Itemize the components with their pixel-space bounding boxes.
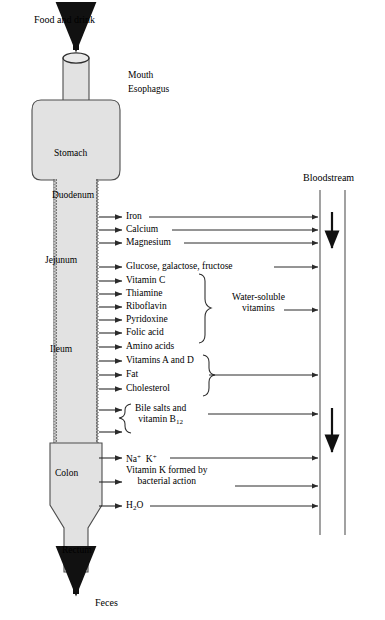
substance-label: Fat <box>126 369 138 380</box>
substance-label: Vitamin C <box>126 275 165 286</box>
substance-label: Magnesium <box>126 237 171 248</box>
substance-label: Iron <box>126 211 142 222</box>
organ-label-duodenum: Duodenum <box>52 190 94 201</box>
substance-label: Calcium <box>126 224 158 235</box>
organ-label-colon: Colon <box>55 468 78 479</box>
organ-label-ileum: Ileum <box>50 344 72 355</box>
organ-label-rectum: Rectum <box>62 545 92 556</box>
intake-label: Food and drink <box>34 14 95 25</box>
organ-label-stomach: Stomach <box>54 148 87 159</box>
substance-group-label: Bile salts andvitamin B12 <box>135 403 186 428</box>
digestive-absorption-diagram: Food and drink Feces Bloodstream MouthEs… <box>0 0 385 620</box>
substance-label: Vitamins A and D <box>126 355 194 366</box>
substance-label: Amino acids <box>126 341 174 352</box>
gi-tract-shape <box>32 53 120 572</box>
organ-label-esophagus: Esophagus <box>128 84 169 95</box>
substance-label: H2O <box>126 500 143 514</box>
organ-label-mouth: Mouth <box>128 70 153 81</box>
bloodstream-label: Bloodstream <box>303 172 354 183</box>
substance-label: Cholesterol <box>126 383 170 394</box>
substance-label: Glucose, galactose, fructose <box>126 261 233 272</box>
organ-label-jejunum: Jejunum <box>45 255 77 266</box>
substance-label: Thiamine <box>126 288 162 299</box>
substance-group-label: Vitamin K formed bybacterial action <box>126 465 207 487</box>
bloodstream-vessel <box>320 190 345 535</box>
substance-label: Pyridoxine <box>126 314 168 325</box>
substance-label: Riboflavin <box>126 301 167 312</box>
substance-label: Folic acid <box>126 327 164 338</box>
substance-group-label: Water-solublevitamins <box>232 292 285 314</box>
feces-label: Feces <box>95 597 118 608</box>
substance-label: Na+ K+ <box>126 452 157 465</box>
diagram-vectors <box>0 0 385 620</box>
